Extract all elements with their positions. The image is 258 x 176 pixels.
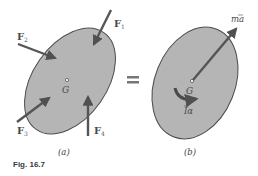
panel-a: F1 F2 F3 F4 G (a) xyxy=(6,10,134,157)
equals-sign xyxy=(127,76,139,84)
inertia-couple-label: Iα xyxy=(183,106,193,116)
panel-b-label: (b) xyxy=(184,147,196,157)
center-of-mass-label-b: G xyxy=(186,86,193,96)
center-of-mass-point-b xyxy=(190,79,193,82)
panel-b: ma G Iα (b) xyxy=(136,14,254,157)
force-label-f3: F3 xyxy=(17,125,28,137)
center-of-mass-label-a: G xyxy=(62,85,69,95)
free-body-diagram: F1 F2 F3 F4 G (a) ma xyxy=(0,0,258,176)
figure-caption: Fig. 16.7 xyxy=(13,160,46,169)
panel-a-label: (a) xyxy=(58,147,70,157)
force-label-f4: F4 xyxy=(94,125,105,137)
center-of-mass-point-a xyxy=(65,78,68,81)
rigid-body-b xyxy=(136,14,254,152)
force-label-f2: F2 xyxy=(17,31,28,43)
force-label-f1: F1 xyxy=(114,18,125,30)
inertia-vector-ma-label: ma xyxy=(231,14,244,24)
